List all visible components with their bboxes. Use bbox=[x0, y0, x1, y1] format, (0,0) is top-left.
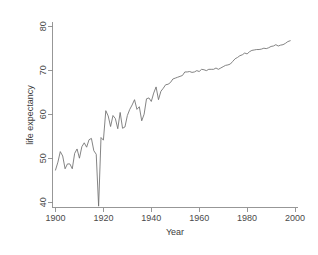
line-chart-plot: 80 70 60 50 40 1900 1920 1940 1960 1980 … bbox=[0, 0, 318, 255]
y-tick-label-70: 70 bbox=[38, 65, 48, 75]
x-tick-label-1920: 1920 bbox=[93, 213, 113, 223]
life-expectancy-line bbox=[56, 41, 291, 206]
x-tick-label-2000: 2000 bbox=[285, 213, 305, 223]
x-tick-marks bbox=[56, 208, 296, 213]
y-tick-label-40: 40 bbox=[38, 197, 48, 207]
y-axis-title: life expectancy bbox=[25, 85, 35, 145]
y-tick-label-60: 60 bbox=[38, 109, 48, 119]
y-tick-label-50: 50 bbox=[38, 153, 48, 163]
x-tick-label-1900: 1900 bbox=[45, 213, 65, 223]
y-tick-marks bbox=[48, 26, 53, 202]
x-tick-label-1980: 1980 bbox=[237, 213, 257, 223]
x-axis-title: Year bbox=[166, 227, 184, 237]
x-tick-label-1940: 1940 bbox=[141, 213, 161, 223]
chart-container: 80 70 60 50 40 1900 1920 1940 1960 1980 … bbox=[0, 0, 318, 255]
y-tick-label-80: 80 bbox=[38, 21, 48, 31]
x-tick-label-1960: 1960 bbox=[189, 213, 209, 223]
